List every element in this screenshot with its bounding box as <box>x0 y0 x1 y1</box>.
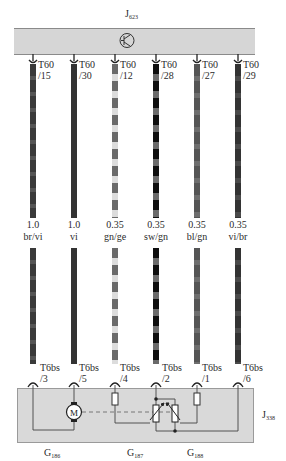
wire-size: 0.35 <box>106 219 124 230</box>
connector-name: T6bs <box>162 362 182 373</box>
wire-color-code: vi/br <box>229 231 248 242</box>
part-label-sub: 186 <box>51 453 60 459</box>
resistor-icon <box>112 393 118 405</box>
resistor-icon <box>194 393 200 405</box>
wire-color-code: bl/gn <box>187 231 208 242</box>
wire-size: 1.0 <box>68 219 81 230</box>
wire-size: 0.35 <box>147 219 165 230</box>
wire-size: 1.0 <box>27 219 40 230</box>
wire-color-code: vi <box>70 231 78 242</box>
bottom-connector-label-1: T6bs/3 <box>40 362 60 384</box>
wire-spec-6: 0.35vi/br <box>218 219 258 243</box>
wire-spec-2: 1.0vi <box>54 219 94 243</box>
top-connector-label-1: T60/15 <box>38 59 54 81</box>
part-label-g188: G188 <box>187 447 203 461</box>
connector-name: T6bs <box>79 362 99 373</box>
top-connector-label-3: T60/12 <box>120 59 136 81</box>
bottom-connector-label-5: T6bs/1 <box>202 362 222 384</box>
part-label-sub: 188 <box>194 453 203 459</box>
connector-name: T60 <box>243 59 259 70</box>
top-connector-label-2: T60/30 <box>79 59 95 81</box>
connector-name: T60 <box>79 59 95 70</box>
connector-pin: /4 <box>120 373 128 384</box>
bottom-component-label: J338 <box>262 409 275 424</box>
motor-icon: M <box>67 402 82 422</box>
wire-size: 0.35 <box>229 219 247 230</box>
top-connector-label-4: T60/28 <box>161 59 177 81</box>
connector-pin: /27 <box>202 70 215 81</box>
connector-pin: /30 <box>79 70 92 81</box>
connector-pin: /6 <box>243 373 251 384</box>
connector-name: T6bs <box>202 362 222 373</box>
bottom-connector-label-6: T6bs/6 <box>243 362 263 384</box>
connector-name: T60 <box>161 59 177 70</box>
top-connector-label-5: T60/27 <box>202 59 218 81</box>
connector-pin: /1 <box>202 373 210 384</box>
bottom-component-label-sub: 338 <box>266 415 275 421</box>
wire-color-code: gn/ge <box>104 231 126 242</box>
connector-name: T60 <box>120 59 136 70</box>
svg-text:M: M <box>70 408 78 418</box>
part-label-g186: G186 <box>44 447 60 461</box>
junction-dot <box>173 429 177 433</box>
bottom-connector-label-2: T6bs/5 <box>79 362 99 384</box>
wire-color-code: sw/gn <box>144 231 168 242</box>
transistor-icon <box>120 34 134 48</box>
connector-pin: /5 <box>79 373 87 384</box>
connector-pin: /28 <box>161 70 174 81</box>
connector-name: T60 <box>38 59 54 70</box>
wire-spec-1: 1.0br/vi <box>13 219 53 243</box>
bottom-connector-label-4: T6bs/2 <box>162 362 182 384</box>
wire-color-code: br/vi <box>24 231 43 242</box>
junction-dot <box>154 397 158 401</box>
connector-name: T6bs <box>120 362 140 373</box>
connector-pin: /15 <box>38 70 51 81</box>
wire-spec-5: 0.35bl/gn <box>177 219 217 243</box>
bottom-connector-label-3: T6bs/4 <box>120 362 140 384</box>
top-connector-label-6: T60/29 <box>243 59 259 81</box>
connector-name: T6bs <box>243 362 263 373</box>
connector-pin: /2 <box>162 373 170 384</box>
wire-spec-4: 0.35sw/gn <box>136 219 176 243</box>
connector-name: T6bs <box>40 362 60 373</box>
part-label-g187: G187 <box>127 447 143 461</box>
part-label-sub: 187 <box>134 453 143 459</box>
connector-pin: /12 <box>120 70 133 81</box>
wire-size: 0.35 <box>188 219 206 230</box>
connector-name: T60 <box>202 59 218 70</box>
wire-spec-3: 0.35gn/ge <box>95 219 135 243</box>
connector-pin: /3 <box>40 373 48 384</box>
connector-pin: /29 <box>243 70 256 81</box>
